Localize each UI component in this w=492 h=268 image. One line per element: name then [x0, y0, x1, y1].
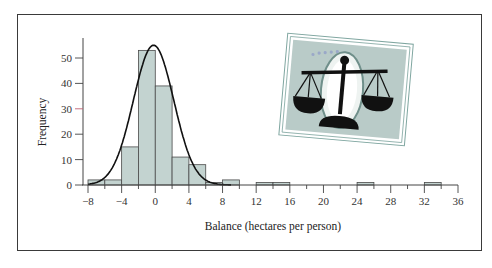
x-tick-label: 36	[453, 195, 465, 207]
x-tick-label: 0	[153, 195, 159, 207]
x-tick-label: 20	[318, 195, 330, 207]
x-tick-label: 24	[352, 195, 364, 207]
histogram-bar	[189, 165, 206, 185]
x-tick-label: −4	[116, 195, 128, 207]
x-tick-label: −8	[82, 195, 94, 207]
histogram-bar	[122, 147, 139, 185]
x-tick-label: 32	[419, 195, 430, 207]
y-tick-label: 50	[61, 52, 73, 64]
y-tick-label: 10	[61, 154, 73, 166]
x-tick-label: 4	[186, 195, 192, 207]
y-tick-label: 30	[61, 103, 73, 115]
y-tick-label: 40	[61, 77, 73, 89]
x-tick-label: 28	[385, 195, 397, 207]
scales-of-justice-icon	[279, 33, 413, 146]
x-tick-label: 8	[220, 195, 226, 207]
x-tick-label: 16	[284, 195, 296, 207]
x-axis-label: Balance (hectares per person)	[205, 220, 341, 233]
histogram-chart: −8−40481216202428323601020304050 Balance…	[0, 0, 492, 268]
y-tick-label: 20	[61, 128, 73, 140]
y-tick-label: 0	[67, 179, 73, 191]
histogram-bar	[155, 86, 172, 185]
x-tick-label: 12	[251, 195, 262, 207]
histogram-bar	[105, 180, 122, 185]
histogram-bar	[172, 157, 189, 185]
y-axis-label: Frequency	[36, 97, 49, 146]
